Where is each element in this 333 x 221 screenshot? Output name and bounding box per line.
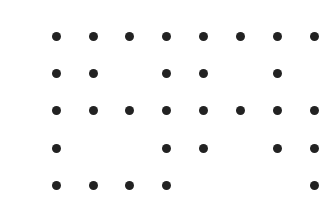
grid-dot xyxy=(89,32,98,41)
grid-dot xyxy=(236,106,245,115)
grid-dot xyxy=(52,144,61,153)
grid-dot xyxy=(199,106,208,115)
grid-dot xyxy=(162,69,171,78)
grid-dot xyxy=(199,32,208,41)
grid-dot xyxy=(89,69,98,78)
grid-dot xyxy=(310,144,319,153)
grid-dot xyxy=(162,106,171,115)
grid-dot xyxy=(52,32,61,41)
grid-dot xyxy=(199,69,208,78)
grid-dot xyxy=(162,144,171,153)
grid-dot xyxy=(89,181,98,190)
grid-dot xyxy=(125,32,134,41)
grid-dot xyxy=(310,181,319,190)
grid-dot xyxy=(273,69,282,78)
grid-dot xyxy=(310,32,319,41)
dot-grid xyxy=(0,0,333,221)
grid-dot xyxy=(162,32,171,41)
grid-dot xyxy=(273,144,282,153)
grid-dot xyxy=(89,106,98,115)
grid-dot xyxy=(52,106,61,115)
grid-dot xyxy=(125,106,134,115)
grid-dot xyxy=(52,69,61,78)
grid-dot xyxy=(199,144,208,153)
grid-dot xyxy=(273,106,282,115)
grid-dot xyxy=(162,181,171,190)
grid-dot xyxy=(125,181,134,190)
grid-dot xyxy=(310,106,319,115)
grid-dot xyxy=(52,181,61,190)
grid-dot xyxy=(273,32,282,41)
grid-dot xyxy=(236,32,245,41)
